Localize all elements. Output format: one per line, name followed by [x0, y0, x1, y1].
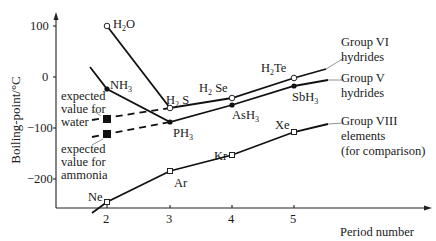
- label-kr: Kr: [214, 149, 228, 163]
- svg-text:elements: elements: [341, 129, 386, 143]
- svg-text:(for comparison): (for comparison): [341, 144, 425, 158]
- markers-group-viii: [105, 130, 297, 205]
- point-ash3: [229, 102, 234, 107]
- label-ar: Ar: [174, 176, 188, 190]
- label-ne: Ne: [88, 190, 103, 204]
- y-tick-100: 100: [30, 19, 49, 33]
- svg-text:hydrides: hydrides: [341, 50, 384, 64]
- legend-group-viii: Group VIII elements (for comparison): [341, 114, 425, 158]
- label-ash3: AsH3: [232, 108, 259, 124]
- label-h2se: H2 Se: [199, 81, 228, 97]
- x-tick-4: 4: [228, 212, 235, 226]
- series-group-viii: [92, 124, 328, 213]
- label-sbh3: SbH3: [292, 90, 318, 106]
- point-kr: [230, 153, 235, 158]
- point-h2o: [104, 23, 110, 29]
- point-ne: [105, 200, 110, 205]
- svg-text:ammonia: ammonia: [61, 168, 108, 182]
- point-h2se: [229, 95, 235, 101]
- point-expected-ammonia: [103, 130, 111, 138]
- y-tick-minus100: −100: [27, 121, 53, 135]
- annotation-expected-water: expected value for water: [61, 89, 107, 129]
- legend-group-vi: Group VI hydrides: [341, 35, 389, 64]
- y-tick-minus200: −200: [27, 172, 53, 186]
- x-tick-3: 3: [166, 212, 172, 226]
- x-tick-2: 2: [103, 212, 109, 226]
- svg-text:hydrides: hydrides: [341, 86, 384, 100]
- svg-text:water: water: [61, 115, 90, 129]
- svg-text:value for: value for: [61, 155, 107, 169]
- x-axis-label: Period number: [340, 225, 415, 239]
- svg-text:Group VIII: Group VIII: [341, 114, 397, 128]
- svg-text:Group V: Group V: [341, 71, 385, 85]
- x-axis: [56, 205, 428, 208]
- annotation-expected-ammonia: expected value for ammonia: [61, 142, 108, 182]
- label-xe: Xe: [275, 118, 290, 132]
- svg-text:expected: expected: [61, 89, 106, 103]
- label-ph3: PH3: [173, 126, 193, 142]
- label-h2o: H2O: [113, 17, 135, 33]
- label-nh3: NH3: [110, 78, 132, 94]
- svg-text:value for: value for: [61, 102, 107, 116]
- y-axis-label: Boiling-point/°C: [8, 76, 23, 164]
- point-h2te: [291, 75, 297, 81]
- legend-group-v: Group V hydrides: [341, 71, 385, 100]
- svg-text:expected: expected: [61, 142, 106, 156]
- label-h2te: H2Te: [261, 61, 287, 77]
- x-axis-arrow-icon: [424, 206, 432, 211]
- y-axis: [53, 17, 56, 208]
- y-axis-arrow-icon: [54, 12, 59, 20]
- point-ar: [168, 169, 173, 174]
- point-sbh3: [291, 83, 296, 88]
- x-tick-5: 5: [290, 212, 296, 226]
- boiling-point-chart: 100 0 −100 −200 2 3 4 5 Boiling-point/°C…: [0, 0, 436, 241]
- markers-expected: [103, 115, 111, 138]
- point-expected-water: [103, 115, 111, 123]
- label-h2s: H2 S: [166, 93, 189, 109]
- y-tick-0: 0: [42, 70, 48, 84]
- point-ph3: [167, 119, 172, 124]
- svg-text:Group VI: Group VI: [341, 35, 389, 49]
- point-xe: [292, 130, 297, 135]
